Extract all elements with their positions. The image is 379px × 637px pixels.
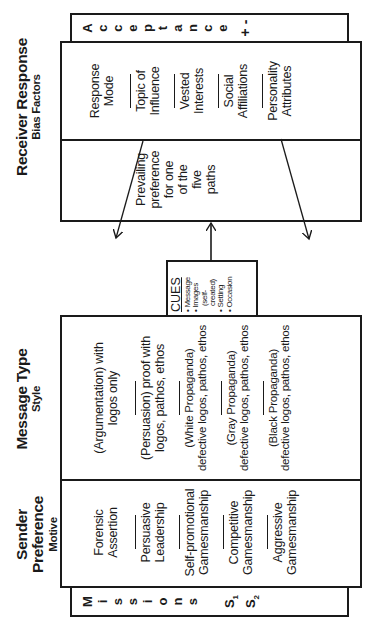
arrow-left-icon <box>116 141 143 238</box>
flow-arrows <box>0 0 379 637</box>
arrow-right-icon <box>281 139 309 239</box>
diagram-canvas: Sender Preference Motive Message Type St… <box>0 0 379 637</box>
